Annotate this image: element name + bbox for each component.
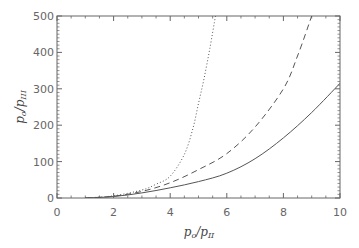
axis-ticks (57, 16, 340, 198)
y-tick-label: 500 (33, 10, 54, 23)
y-axis-label: po/pIII (13, 89, 28, 124)
y-tick-label: 100 (33, 156, 54, 169)
y-tick-labels: 0100200300400500 (33, 10, 54, 205)
data-series (85, 16, 340, 198)
x-tick-labels: 0246810 (54, 206, 348, 219)
x-axis-label: po/pII (184, 225, 215, 240)
x-tick-label: 2 (110, 206, 117, 219)
x-tick-label: 8 (280, 206, 287, 219)
plot-frame (57, 16, 340, 198)
x-tick-label: 0 (54, 206, 61, 219)
x-tick-label: 4 (167, 206, 174, 219)
y-tick-label: 300 (33, 83, 54, 96)
y-tick-label: 200 (33, 119, 54, 132)
y-tick-label: 0 (47, 192, 54, 205)
x-tick-label: 10 (333, 206, 347, 219)
y-tick-label: 400 (33, 46, 54, 59)
line-chart: 0246810 0100200300400500 po/pII po/pIII (0, 0, 359, 248)
x-tick-label: 6 (223, 206, 230, 219)
series-solid-line (85, 83, 340, 198)
series-dashed-line (85, 16, 311, 198)
